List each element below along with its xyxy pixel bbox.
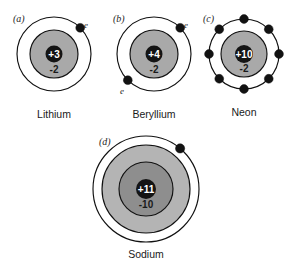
neon-inner-shell-charge: -2 [240, 63, 249, 74]
element-name-sodium: Sodium [96, 248, 196, 260]
beryllium-electron-label-2: e [120, 86, 124, 96]
panel-label-c: (c) [203, 13, 214, 24]
sodium-inner-shell-charge: -10 [139, 199, 153, 210]
beryllium-inner-shell-charge: -2 [150, 64, 159, 75]
element-name-beryllium: Beryllium [104, 108, 204, 120]
atom-diagram-sodium: +11 -10 [84, 132, 208, 246]
beryllium-nucleus-charge: +4 [148, 49, 159, 60]
panel-label-d: (d) [99, 136, 111, 147]
sodium-nucleus-charge: +11 [138, 184, 154, 195]
lithium-nucleus-charge: +3 [48, 49, 59, 60]
element-name-lithium: Lithium [4, 108, 104, 120]
element-name-neon: Neon [194, 106, 292, 118]
neon-nucleus-charge: +10 [236, 49, 253, 60]
panel-label-a: (a) [13, 13, 25, 24]
panel-label-b: (b) [113, 13, 125, 24]
sodium-text-layer: +11 -10 [84, 132, 208, 246]
bohr-atom-models-figure: +3 -2 (a) e Lithium +4 -2 (b) e e Beryll… [0, 0, 292, 267]
beryllium-electron-label-1: e [184, 20, 188, 30]
lithium-electron-label-1: e [84, 20, 88, 30]
lithium-inner-shell-charge: -2 [50, 64, 59, 75]
